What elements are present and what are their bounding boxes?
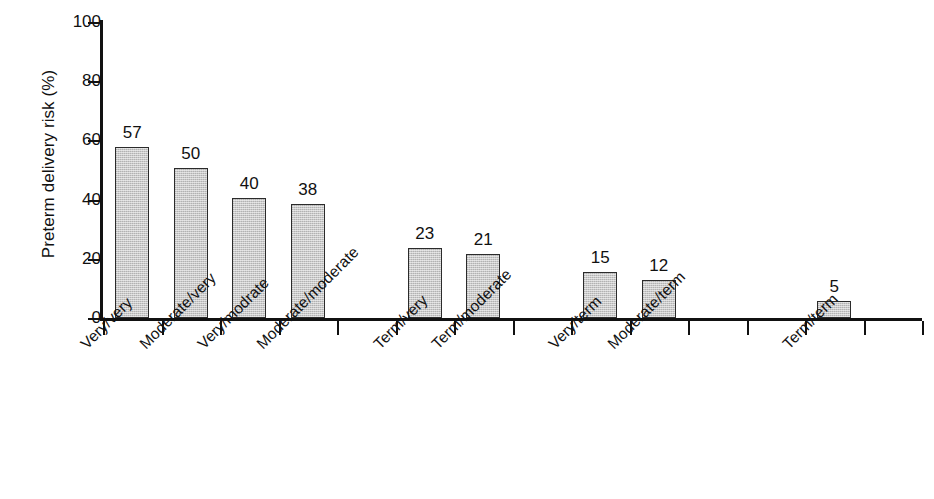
y-axis-tick-label: 80 — [55, 71, 101, 91]
x-axis-category-label: Term/very — [370, 291, 431, 352]
x-axis-tick-mark — [922, 321, 924, 335]
x-axis-tick-mark — [747, 321, 749, 335]
bar-chart: Preterm delivery risk (%) 100806040200 5… — [0, 0, 934, 499]
x-axis-category-label: Very/term — [545, 292, 605, 352]
x-axis-category-label: Term/term — [779, 290, 842, 353]
y-axis-tick-label: 40 — [55, 190, 101, 210]
bar-value-label: 50 — [181, 144, 200, 164]
y-axis-title: Preterm delivery risk (%) — [39, 14, 59, 314]
bar-value-label: 23 — [415, 224, 434, 244]
bar-value-label: 12 — [649, 256, 668, 276]
y-axis-tick-label: 60 — [55, 130, 101, 150]
y-axis-line — [100, 20, 103, 320]
bar-value-label: 15 — [591, 248, 610, 268]
x-axis-tick-mark — [688, 321, 690, 335]
y-axis-tick-label: 20 — [55, 249, 101, 269]
x-axis-tick-mark — [337, 321, 339, 335]
bar-value-label: 40 — [240, 174, 259, 194]
bar-value-label: 57 — [123, 123, 142, 143]
bar-value-label: 21 — [474, 230, 493, 250]
bar — [115, 147, 149, 318]
bar-value-label: 38 — [298, 180, 317, 200]
x-axis-tick-mark — [864, 321, 866, 335]
y-axis-tick-label: 100 — [55, 12, 101, 32]
x-axis-tick-mark — [513, 321, 515, 335]
